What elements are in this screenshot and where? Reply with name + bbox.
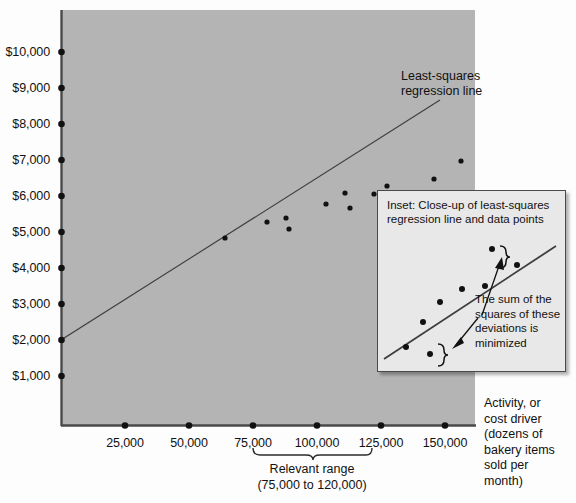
inset-note-line3: deviations is [475,321,567,336]
x-axis-title-line4: bakery items [484,443,576,459]
inset-data-point [403,344,409,350]
y-tick-label: $4,000 [0,262,50,275]
data-point [286,226,291,231]
inset-data-point [420,319,426,325]
inset-panel: Inset: Close-up of least-squares regress… [377,190,566,372]
x-tick-label: 150,000 [405,437,485,450]
inset-note-line2: squares of these [475,307,567,322]
inset-note: The sum of the squares of these deviatio… [475,292,567,350]
inset-note-line4: minimized [475,336,567,351]
data-point [222,235,227,240]
regression-line-label-line2: regression line [401,84,482,99]
data-point [342,190,347,195]
y-tick-label: $2,000 [0,334,50,347]
deviation-arrow-upper-head [495,257,504,270]
relevant-range-label: Relevant range (75,000 to 120,000) [222,462,402,493]
data-point [347,205,352,210]
inset-data-point [427,351,433,357]
deviation-arrow-lower-head [452,337,464,349]
x-axis-title-line1: Activity, or [484,396,576,412]
y-tick-label: $3,000 [0,298,50,311]
inset-data-point [482,283,488,289]
inset-data-point [514,262,520,268]
y-tick-label: $1,000 [0,370,50,383]
y-tick-label: $6,000 [0,190,50,203]
data-point [323,201,328,206]
x-axis-title: Activity, or cost driver (dozens of bake… [484,396,576,489]
x-axis-title-line6: month) [484,474,576,490]
x-axis-title-line5: sold per [484,458,576,474]
y-tick-label: $7,000 [0,154,50,167]
relevant-range-line2: (75,000 to 120,000) [222,478,402,494]
regression-line-label: Least-squares regression line [401,69,482,99]
inset-data-point [437,299,443,305]
data-point [431,176,436,181]
inset-data-point [459,286,465,292]
y-tick-label: $8,000 [0,118,50,131]
chart-canvas: $10,000 $9,000 $8,000 $7,000 $6,000 $5,0… [0,0,576,503]
deviation-brace-lower [438,344,448,366]
y-tick-label: $10,000 [0,46,50,59]
data-point [371,191,376,196]
y-tick-label: $5,000 [0,226,50,239]
relevant-range-line1: Relevant range [222,462,402,478]
data-point [264,219,269,224]
y-tick-label: $9,000 [0,82,50,95]
inset-note-line1: The sum of the [475,292,567,307]
data-point [384,183,389,188]
data-point [283,215,288,220]
regression-line-label-line1: Least-squares [401,69,482,84]
x-axis-title-line2: cost driver [484,412,576,428]
inset-data-point [489,246,495,252]
data-point [458,158,463,163]
x-axis-title-line3: (dozens of [484,427,576,443]
